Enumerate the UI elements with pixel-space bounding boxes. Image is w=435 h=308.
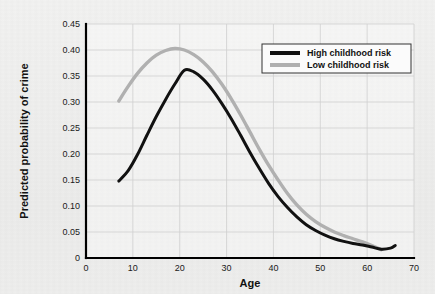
legend-label-low-childhood-risk: Low childhood risk xyxy=(307,60,390,70)
line-chart: 00.050.100.150.200.250.300.350.400.45 01… xyxy=(0,0,435,308)
x-axis-tick-labels: 010203040506070 xyxy=(83,263,419,273)
x-tick-label: 10 xyxy=(128,263,138,273)
x-tick-label: 30 xyxy=(222,263,232,273)
legend-label-high-childhood-risk: High childhood risk xyxy=(307,48,392,58)
figure-page: 00.050.100.150.200.250.300.350.400.45 01… xyxy=(0,0,435,308)
x-tick-label: 0 xyxy=(83,263,88,273)
x-tick-label: 20 xyxy=(175,263,185,273)
y-tick-label: 0.40 xyxy=(62,45,80,55)
y-axis-tick-labels: 00.050.100.150.200.250.300.350.400.45 xyxy=(62,19,80,263)
y-tick-label: 0.30 xyxy=(62,97,80,107)
y-tick-label: 0 xyxy=(75,253,80,263)
y-tick-label: 0.35 xyxy=(62,71,80,81)
y-tick-label: 0.25 xyxy=(62,123,80,133)
y-tick-label: 0.10 xyxy=(62,201,80,211)
y-tick-label: 0.05 xyxy=(62,227,80,237)
x-tick-label: 40 xyxy=(268,263,278,273)
x-tick-label: 60 xyxy=(362,263,372,273)
x-axis-title: Age xyxy=(240,277,261,289)
y-axis-title: Predicted probability of crime xyxy=(18,63,30,218)
y-tick-label: 0.45 xyxy=(62,19,80,29)
x-tick-label: 50 xyxy=(315,263,325,273)
y-tick-label: 0.15 xyxy=(62,175,80,185)
y-tick-label: 0.20 xyxy=(62,149,80,159)
legend: High childhood risk Low childhood risk xyxy=(262,44,411,73)
x-tick-label: 70 xyxy=(409,263,419,273)
